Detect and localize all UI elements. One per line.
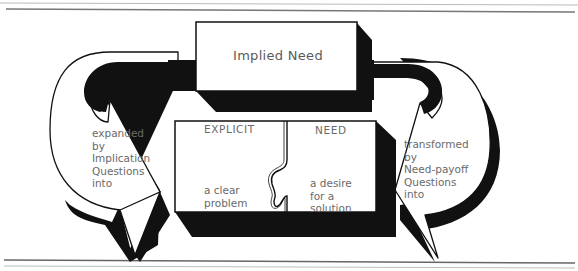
top-rule-thin	[0, 3, 578, 5]
diagram-artwork	[0, 0, 578, 271]
explicit-need-box	[175, 121, 396, 237]
bottom-rule	[4, 260, 575, 263]
explicit-description: a clear problem	[204, 184, 247, 209]
left-connector-shadow	[168, 60, 196, 91]
need-description: a desire for a solution	[310, 177, 352, 215]
top-rule	[6, 9, 575, 12]
right-arrow-label: transformed by Need-payoff Questions int…	[404, 138, 469, 201]
need-heading: NEED	[315, 124, 347, 136]
explicit-heading: EXPLICIT	[204, 123, 255, 135]
left-arrow-label: expanded by Implication Questions into	[92, 127, 150, 190]
diagram-canvas: Implied Need EXPLICIT NEED a clear probl…	[0, 0, 578, 271]
implied-need-label: Implied Need	[233, 48, 323, 63]
bottom-rule-thin	[4, 266, 575, 268]
implied-need-box	[196, 22, 372, 112]
